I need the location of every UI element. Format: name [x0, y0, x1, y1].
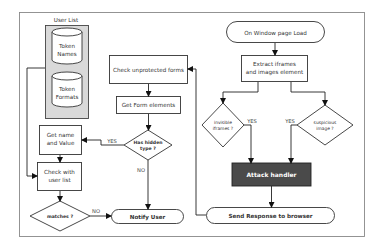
token-formats-line2: Formats — [56, 94, 79, 100]
extract-iframes-line1: Extract iframes — [253, 61, 296, 67]
has-hidden-type-line2: type ? — [140, 146, 156, 151]
check-unprotected-forms-text: Check unprotected forms — [113, 67, 184, 74]
user-list-label: User List — [54, 17, 79, 23]
attack-handler-text: Attack handler — [246, 171, 296, 178]
token-names-line1: Token — [58, 43, 75, 49]
extract-iframes-line2: and images element — [246, 69, 304, 76]
yes-label-hidden: YES — [106, 138, 117, 144]
get-form-elements-text: Get Form elements — [122, 102, 176, 108]
yes-label-iframes: YES — [246, 118, 257, 124]
check-user-list-line2: user list — [48, 177, 71, 183]
notify-user-text: Notify User — [130, 214, 166, 221]
token-names-line2: Names — [57, 51, 77, 57]
has-hidden-type-line1: Has hidden — [133, 140, 162, 145]
suspicious-image-line1: suspicious — [314, 120, 337, 125]
invisible-iframes-line1: invisible — [214, 120, 232, 125]
get-name-value-line1: Get name — [47, 132, 75, 138]
matches-text: matches ? — [47, 214, 74, 219]
no-label-matches: NO — [92, 208, 100, 214]
check-user-list-line1: Check with — [44, 169, 75, 175]
token-formats-line1: Token — [58, 86, 75, 92]
invisible-iframes-line2: iframes ? — [213, 126, 234, 131]
yes-label-image: YES — [284, 118, 295, 124]
flowchart: User List Token Names Token Formats Chec… — [0, 0, 383, 249]
send-response-text: Send Response to browser — [228, 213, 312, 220]
get-name-value-line2: and Value — [47, 140, 75, 146]
on-window-page-load-text: On Window page Load — [244, 30, 307, 37]
no-label-hidden: NO — [137, 167, 145, 173]
suspicious-image-line2: image ? — [316, 126, 334, 131]
